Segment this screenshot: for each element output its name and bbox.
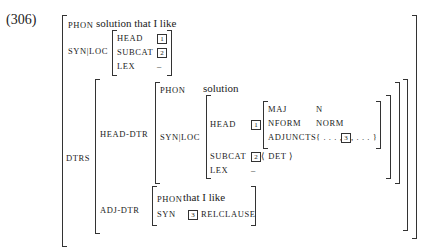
phon-label: PHON bbox=[68, 20, 94, 30]
dtrs-right-bracket bbox=[403, 79, 408, 231]
syn-value: RELCLAUSE bbox=[201, 209, 256, 219]
tag-box-2: 2 bbox=[157, 48, 167, 58]
head-dtr-right-bracket bbox=[395, 82, 400, 184]
head-label: HEAD bbox=[117, 33, 143, 43]
adj-dtr-label: ADJ-DTR bbox=[100, 205, 140, 215]
head-dtr-label: HEAD-DTR bbox=[100, 129, 148, 139]
adjuncts-post: , . . . } bbox=[351, 132, 377, 142]
adj-dtr-syn-label: SYN bbox=[157, 209, 176, 219]
dtrs-label: DTRS bbox=[66, 153, 90, 163]
nform-label: NFORM bbox=[268, 118, 301, 128]
synloc-right-bracket bbox=[167, 30, 172, 76]
head-dtr-lex-label: LEX bbox=[210, 165, 228, 175]
outer-right-bracket bbox=[412, 15, 417, 239]
adj-dtr-left-bracket bbox=[152, 186, 157, 226]
maj-label: MAJ bbox=[268, 104, 287, 114]
lex-value: – bbox=[157, 61, 162, 71]
adj-dtr-phon-label: PHON bbox=[157, 194, 183, 204]
lex-label: LEX bbox=[117, 61, 135, 71]
example-number: (306) bbox=[6, 12, 36, 28]
head-dtr-lex-value: – bbox=[251, 165, 256, 175]
head-dtr-synloc-label: SYN|LOC bbox=[160, 132, 200, 142]
head-dtr-phon-value: solution bbox=[203, 82, 238, 94]
synloc-label: SYN|LOC bbox=[68, 46, 108, 56]
nform-value: NORM bbox=[316, 118, 344, 128]
tag-box-1: 1 bbox=[157, 34, 167, 44]
head-dtr-subcat-label: SUBCAT bbox=[210, 151, 246, 161]
tag-box-3: 3 bbox=[188, 210, 198, 220]
tag-box-1: 1 bbox=[251, 120, 261, 130]
adjuncts-label: ADJUNCTS bbox=[268, 132, 316, 142]
head-dtr-head-label: HEAD bbox=[210, 119, 236, 129]
adj-dtr-right-bracket bbox=[251, 186, 256, 226]
outer-left-bracket bbox=[62, 15, 67, 247]
tag-box-3: 3 bbox=[341, 133, 351, 143]
tag-box-2: 2 bbox=[251, 152, 261, 162]
subcat-value: ⟨ DET ⟩ bbox=[261, 151, 294, 161]
head-dtr-phon-label: PHON bbox=[160, 85, 186, 95]
subcat-label: SUBCAT bbox=[117, 47, 153, 57]
adj-dtr-phon-value: that I like bbox=[183, 191, 225, 203]
adjuncts-pre: { . . . , bbox=[316, 132, 342, 142]
maj-value: N bbox=[316, 104, 323, 114]
phon-value: solution that I like bbox=[96, 17, 176, 29]
head-dtr-synloc-right-bracket bbox=[386, 95, 391, 179]
